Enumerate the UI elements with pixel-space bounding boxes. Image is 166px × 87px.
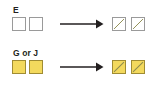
output-cell-group	[112, 60, 145, 74]
grid-cell-filled-diagonal	[131, 60, 145, 74]
grid-cell	[29, 17, 43, 31]
grid-cell-diagonal	[131, 17, 145, 31]
diagram-row: G or J	[0, 43, 166, 87]
diagonal-line-icon	[113, 61, 125, 73]
grid-cell-filled-diagonal	[112, 60, 126, 74]
arrow-right-icon	[60, 17, 104, 31]
input-cell-group	[12, 60, 43, 74]
diagram-row: E	[0, 0, 166, 44]
row-label: G or J	[13, 48, 38, 58]
row-label: E	[13, 5, 19, 15]
grid-cell-filled	[12, 60, 26, 74]
input-cell-group	[12, 17, 43, 31]
diagonal-line-icon	[132, 61, 144, 73]
grid-cell-filled	[29, 60, 43, 74]
rule-diagram: E G or J	[0, 0, 166, 87]
arrow-right-icon	[60, 60, 104, 74]
grid-cell	[12, 17, 26, 31]
diagonal-line-icon	[132, 18, 144, 30]
diagonal-line-icon	[113, 18, 125, 30]
grid-cell-diagonal	[112, 17, 126, 31]
output-cell-group	[112, 17, 145, 31]
